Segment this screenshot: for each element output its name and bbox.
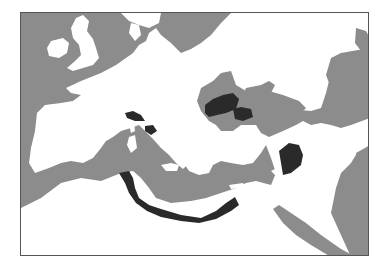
- map-canvas: [21, 13, 369, 256]
- map-frame: [20, 12, 369, 256]
